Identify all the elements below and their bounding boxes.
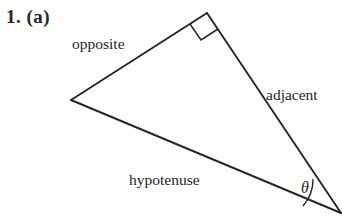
right-triangle-diagram — [0, 0, 342, 222]
label-adjacent: adjacent — [266, 87, 318, 103]
side-hypotenuse-line — [71, 100, 341, 213]
right-angle-marker — [190, 24, 218, 40]
label-opposite: opposite — [72, 36, 125, 52]
side-opposite-line — [71, 13, 207, 100]
figure-canvas: 1. (a) opposite adjacent hypotenuse θ — [0, 0, 342, 222]
label-theta-angle: θ — [301, 180, 309, 196]
problem-number: 1. (a) — [6, 7, 50, 26]
side-adjacent-line — [207, 13, 341, 213]
label-hypotenuse: hypotenuse — [129, 172, 200, 188]
